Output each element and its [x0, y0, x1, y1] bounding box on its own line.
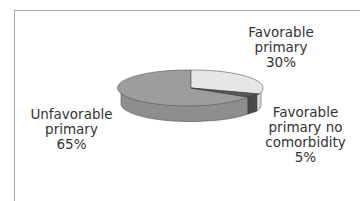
label-line: Favorable	[236, 25, 326, 40]
label-line: Favorable	[258, 105, 353, 120]
label-line: Unfavorable	[24, 107, 119, 122]
label-line: comorbidity	[258, 135, 353, 150]
label-line: primary	[236, 40, 326, 55]
label-line: 30%	[236, 55, 326, 70]
label-line: primary no	[258, 120, 353, 135]
label-no-comorbidity: Favorable primary no comorbidity 5%	[258, 105, 353, 165]
label-line: 65%	[24, 137, 119, 152]
label-favorable: Favorable primary 30%	[236, 25, 326, 70]
label-line: 5%	[258, 150, 353, 165]
label-line: primary	[24, 122, 119, 137]
label-unfavorable: Unfavorable primary 65%	[24, 107, 119, 152]
